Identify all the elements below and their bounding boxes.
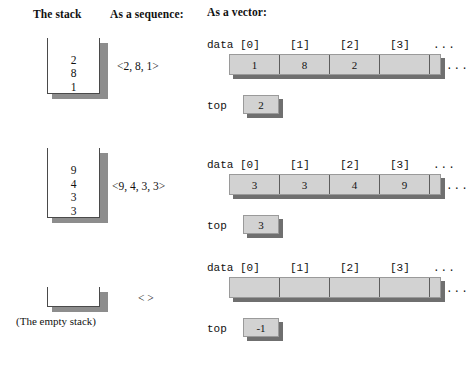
index-label-3: [3] <box>390 262 410 274</box>
sequence-notation-row-3: < > <box>138 292 154 304</box>
column-header-as-a-sequence: As a sequence: <box>110 8 184 20</box>
stack-item: 3 <box>71 191 77 205</box>
stack-diagram-row-1: 2 8 1 <box>47 38 107 98</box>
top-value-box: 3 <box>243 215 279 234</box>
array-cell-2: 2 <box>330 55 380 74</box>
index-label-1: [1] <box>290 262 310 274</box>
index-label-3: [3] <box>390 39 410 51</box>
array-cell-more <box>430 175 440 194</box>
stack-walls <box>47 287 100 307</box>
stack-item: 9 <box>71 164 77 178</box>
stack-item: 2 <box>71 54 77 68</box>
index-label-0: [0] <box>240 159 260 171</box>
array-cell-more <box>430 278 440 297</box>
empty-stack-caption: (The empty stack) <box>16 315 96 327</box>
array-ellipsis: ... <box>446 60 469 72</box>
data-label: data <box>207 39 233 51</box>
index-label-3: [3] <box>390 159 410 171</box>
index-label-0: [0] <box>240 39 260 51</box>
stack-item: 1 <box>71 81 77 95</box>
array-cell-3: 9 <box>380 175 430 194</box>
array-cell-1: 8 <box>280 55 330 74</box>
array-cell-2: 4 <box>330 175 380 194</box>
index-label-1: [1] <box>290 39 310 51</box>
index-label-0: [0] <box>240 262 260 274</box>
stack-item: 3 <box>71 205 77 219</box>
array-cell-3 <box>380 278 430 297</box>
array-ellipsis: ... <box>446 283 469 295</box>
stack-diagram-row-3-empty <box>47 287 107 313</box>
array-cells-row-3 <box>229 277 441 298</box>
index-ellipsis: ... <box>433 262 456 274</box>
sequence-notation-row-1: <2, 8, 1> <box>117 60 159 72</box>
array-cell-more <box>430 55 440 74</box>
array-cells-row-2: 3 3 4 9 <box>229 174 441 195</box>
stack-contents: 9 4 3 3 <box>47 148 100 221</box>
array-cell-0 <box>230 278 280 297</box>
array-cells-row-1: 1 8 2 <box>229 54 441 75</box>
stack-contents: 2 8 1 <box>47 38 100 97</box>
top-label: top <box>207 100 227 112</box>
array-ellipsis: ... <box>446 180 469 192</box>
top-value-box: 2 <box>243 95 279 114</box>
top-label: top <box>207 323 227 335</box>
array-cell-0: 1 <box>230 55 280 74</box>
column-header-the-stack: The stack <box>33 8 82 20</box>
index-label-2: [2] <box>340 262 360 274</box>
array-cell-1: 3 <box>280 175 330 194</box>
data-label: data <box>207 159 233 171</box>
index-ellipsis: ... <box>433 39 456 51</box>
sequence-notation-row-2: <9, 4, 3, 3> <box>112 180 165 192</box>
stack-item: 4 <box>71 178 77 192</box>
data-label: data <box>207 262 233 274</box>
index-label-2: [2] <box>340 159 360 171</box>
index-label-1: [1] <box>290 159 310 171</box>
column-header-as-a-vector: As a vector: <box>207 6 267 18</box>
array-cell-1 <box>280 278 330 297</box>
array-cell-2 <box>330 278 380 297</box>
top-value-box: -1 <box>243 318 279 337</box>
index-label-2: [2] <box>340 39 360 51</box>
index-ellipsis: ... <box>433 159 456 171</box>
array-cell-0: 3 <box>230 175 280 194</box>
stack-diagram-row-2: 9 4 3 3 <box>47 148 107 222</box>
array-cell-3 <box>380 55 430 74</box>
stack-item: 8 <box>71 67 77 81</box>
top-label: top <box>207 220 227 232</box>
